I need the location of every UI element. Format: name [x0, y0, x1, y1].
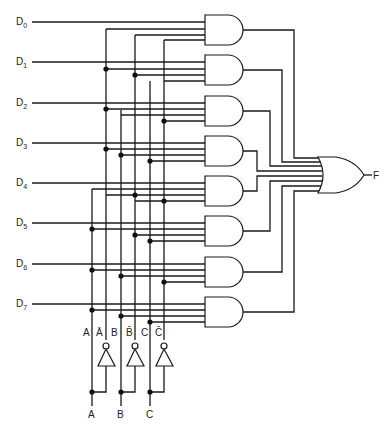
inverters — [89, 343, 173, 395]
and-gate-1 — [205, 55, 243, 85]
label-d1: D1 — [16, 56, 27, 69]
svg-text:B̄: B̄ — [126, 326, 133, 338]
input-a-label: A — [88, 409, 95, 420]
and-gate-3 — [205, 136, 243, 166]
mux-schematic: D0 D1 D2 D3 D4 D5 D6 D7 — [0, 0, 391, 429]
and-gate-7 — [205, 297, 243, 327]
label-d3: D3 — [16, 137, 27, 150]
label-d7: D7 — [16, 298, 27, 311]
and-gate-6 — [205, 257, 243, 287]
and-gates — [205, 15, 243, 327]
label-d2: D2 — [16, 97, 27, 110]
input-c-label: C — [146, 409, 153, 420]
or-gate — [318, 157, 364, 193]
and-gate-0 — [205, 15, 243, 45]
label-d5: D5 — [16, 217, 27, 230]
svg-text:A: A — [83, 327, 90, 338]
and-gate-4 — [205, 176, 243, 206]
output-label: F — [373, 170, 379, 181]
gate-select-wires — [92, 29, 205, 322]
inverter-c — [150, 343, 173, 392]
data-input-wires — [32, 22, 205, 304]
svg-text:C: C — [141, 327, 148, 338]
inverter-b — [121, 343, 144, 392]
and-to-or-wires — [243, 30, 322, 312]
svg-text:C̄: C̄ — [155, 326, 162, 338]
and-gate-5 — [205, 216, 243, 246]
select-bus — [92, 29, 164, 406]
data-input-labels: D0 D1 D2 D3 D4 D5 D6 D7 — [16, 16, 27, 311]
select-input-labels: A B C — [88, 409, 153, 420]
and-gate-2 — [205, 96, 243, 126]
inverter-a — [92, 343, 115, 392]
svg-text:B: B — [111, 327, 118, 338]
input-b-label: B — [117, 409, 124, 420]
label-d4: D4 — [16, 177, 27, 190]
svg-text:Ā: Ā — [96, 327, 103, 338]
label-d6: D6 — [16, 258, 27, 271]
label-d0: D0 — [16, 16, 27, 29]
